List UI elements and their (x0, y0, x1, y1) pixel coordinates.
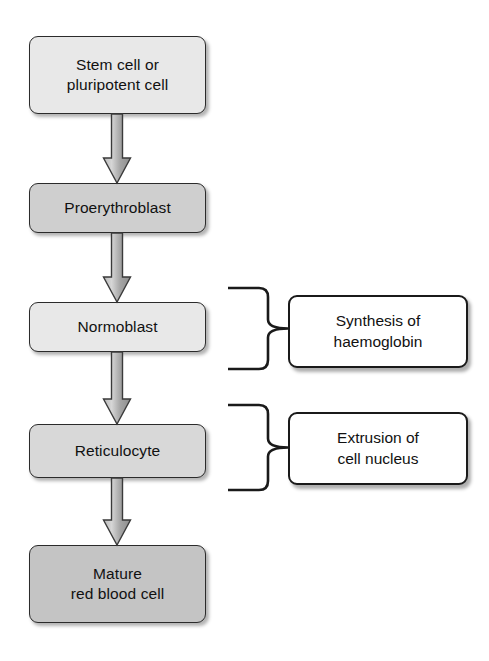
stage-label: Proerythroblast (58, 198, 177, 218)
stage-label: Mature red blood cell (65, 564, 171, 605)
stage-node-mature-red-blood-cell[interactable]: Mature red blood cell (29, 545, 206, 623)
annotation-label: Extrusion of cell nucleus (331, 428, 425, 470)
arrow-reticulocyte-to-mature (104, 478, 131, 545)
arrow-stem-to-proerythroblast (104, 114, 131, 183)
stage-node-proerythroblast[interactable]: Proerythroblast (29, 183, 206, 233)
brace-extrusion-of-cell-nucleus (228, 405, 288, 490)
annotation-box-extrusion-of-cell-nucleus[interactable]: Extrusion of cell nucleus (288, 412, 468, 485)
stage-label: Reticulocyte (69, 441, 167, 461)
stage-node-normoblast[interactable]: Normoblast (29, 302, 206, 352)
stage-node-stem-cell[interactable]: Stem cell or pluripotent cell (29, 36, 206, 114)
brace-synthesis-of-haemoglobin (228, 288, 288, 369)
annotation-label: Synthesis of haemoglobin (328, 311, 429, 353)
flowchart-canvas: Stem cell or pluripotent cell Proerythro… (0, 0, 489, 661)
stage-label: Stem cell or pluripotent cell (61, 55, 175, 96)
annotation-box-synthesis-of-haemoglobin[interactable]: Synthesis of haemoglobin (288, 295, 468, 368)
stage-node-reticulocyte[interactable]: Reticulocyte (29, 424, 206, 478)
arrow-normoblast-to-reticulocyte (104, 352, 131, 424)
stage-label: Normoblast (71, 317, 163, 337)
arrow-proerythroblast-to-normoblast (104, 233, 131, 302)
